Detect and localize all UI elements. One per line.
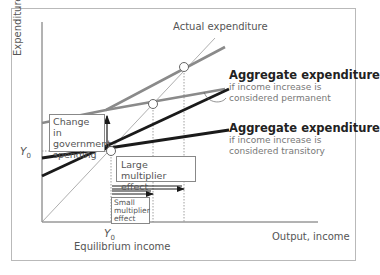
y0-x-tick-label: Y0 (104, 228, 115, 242)
government-spending-box: Change in government spending (49, 114, 105, 152)
small-box-line3: effect (114, 215, 147, 223)
gov-box-line2: government (53, 138, 101, 149)
small-multiplier-box: Small multiplier effect (111, 197, 150, 224)
gov-box-line1: Change in (53, 116, 101, 138)
legend-permanent-title: Aggregate expenditure (229, 70, 380, 82)
legend-permanent-line1: if income increase is (229, 82, 380, 93)
large-multiplier-box: Large multiplier effect (116, 156, 196, 182)
large-box-line1: Large (121, 159, 191, 170)
legend-transitory: Aggregate expenditure if income increase… (229, 123, 380, 157)
y0-axis-tick-label: Y0 (20, 146, 31, 160)
shifted-ae-permanent-line (42, 47, 225, 123)
legend-transitory-title: Aggregate expenditure (229, 123, 380, 135)
equilibrium-point-permanent (180, 63, 189, 72)
legend-transitory-line1: if income increase is (229, 135, 380, 146)
gov-box-line3: spending (53, 149, 101, 160)
actual-expenditure-label: Actual expenditure (173, 22, 268, 32)
x-axis-label: Output, income (272, 232, 350, 242)
legend-permanent: Aggregate expenditure if income increase… (229, 70, 380, 104)
legend-permanent-line2: considered permanent (229, 93, 380, 104)
large-box-line2: multiplier effect (121, 170, 191, 192)
equilibrium-income-label: Equilibrium income (74, 242, 170, 252)
legend-transitory-line2: considered transitory (229, 146, 380, 157)
equilibrium-point-transitory (149, 100, 158, 109)
y-axis-label: Expenditure (13, 0, 23, 56)
